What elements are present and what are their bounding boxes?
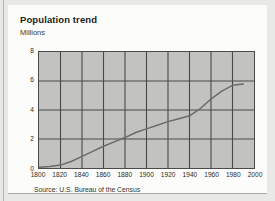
y-tick-label: 6 [8, 77, 34, 84]
y-tick-label: 2 [8, 136, 34, 143]
figure-card: Population trend Millions 02468 18001820… [8, 5, 267, 194]
plot-area [38, 51, 255, 169]
source-note: Source: U.S. Bureau of the Census [34, 186, 140, 193]
card-bottom-rule [8, 193, 267, 194]
y-tick-label: 8 [8, 48, 34, 55]
population-line-series [39, 84, 243, 167]
plot-svg [39, 52, 254, 168]
x-axis-tick-labels: 1800182018401860188019001920194019601980… [38, 172, 255, 184]
page-gutter-rule [3, 0, 4, 201]
y-tick-label: 4 [8, 107, 34, 114]
x-tick-label: 2000 [242, 172, 268, 179]
